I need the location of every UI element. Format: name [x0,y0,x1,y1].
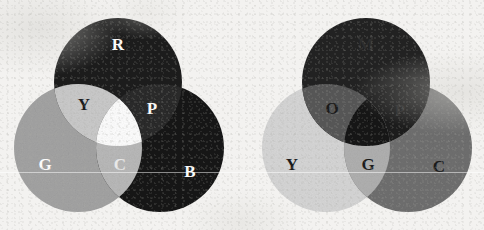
additive-label-red: R [112,35,125,54]
subtractive-label-yellow: Y [286,155,298,174]
subtractive-venn-diagram: M Y C O P G [242,0,484,230]
additive-label-blue: B [184,162,195,181]
additive-venn-diagram: R G B Y P C [0,0,242,230]
subtractive-label-purple: P [395,101,405,120]
color-mixing-figure: R G B Y P C [0,0,484,230]
subtractive-label-magenta: M [358,35,374,54]
additive-label-purple: P [147,99,157,118]
subtractive-label-cyan: C [433,157,445,176]
subtractive-label-orange: O [325,99,338,118]
additive-label-yellow: Y [78,95,90,114]
additive-label-cyan: C [114,155,126,174]
additive-label-green: G [38,155,51,174]
subtractive-label-green: G [361,155,374,174]
